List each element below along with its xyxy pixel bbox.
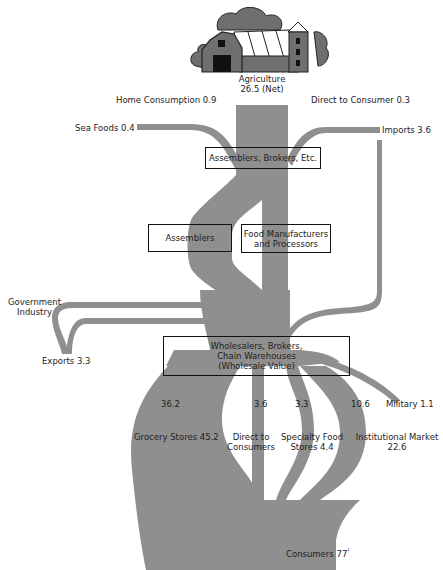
government-label-line2: Industry [17, 307, 52, 317]
sea-foods-label: Sea Foods 0.4 [75, 123, 135, 133]
direct-consumers-line1: Direct to [226, 432, 276, 442]
assemblers-brokers-box: Assemblers, Brokers, Etc. [205, 147, 321, 169]
split-value-specialty: 3.3 [295, 399, 309, 409]
agriculture-label: Agriculture [232, 74, 292, 84]
split-value-institutional: 10.6 [351, 399, 370, 409]
split-value-grocery: 36.2 [161, 399, 180, 409]
farm-barn-silo-icon [191, 7, 329, 72]
specialty-food-line2: Stores 4.4 [278, 442, 346, 452]
flow-diagram [0, 0, 443, 570]
food-manufacturers-line2: and Processors [254, 239, 318, 249]
consumers-label: Consumers 77¹ [286, 546, 350, 559]
agriculture-value: 26.5 (Net) [232, 84, 292, 94]
assemblers-brokers-label: Assemblers, Brokers, Etc. [209, 153, 317, 163]
home-consumption-label: Home Consumption 0.9 [116, 95, 216, 105]
institutional-market-line1: Institutional Market [352, 432, 442, 442]
assemblers-label: Assemblers [165, 233, 214, 243]
food-manufacturers-line1: Food Manufacturers [244, 229, 328, 239]
food-manufacturers-box: Food Manufacturers and Processors [241, 224, 331, 253]
specialty-food-line1: Specialty Food [278, 432, 346, 442]
consumers-footnote-mark: ¹ [347, 547, 349, 554]
wholesalers-line2: Chain Warehouses [217, 351, 296, 361]
military-label: Military 1.1 [386, 399, 434, 409]
imports-label: Imports 3.6 [382, 125, 431, 135]
assemblers-box: Assemblers [148, 224, 232, 252]
direct-consumers-line2: Consumers [226, 442, 276, 452]
grocery-stores-label: Grocery Stores 45.2 [134, 432, 219, 442]
flow-consumers-sink [150, 500, 360, 570]
government-label-line1: Government [8, 297, 61, 307]
institutional-market-line2: 22.6 [352, 442, 442, 452]
wholesalers-box: Wholesalers, Brokers, Chain Warehouses (… [163, 336, 350, 376]
split-value-direct: 3.6 [254, 399, 268, 409]
direct-to-consumer-label: Direct to Consumer 0.3 [311, 95, 410, 105]
wholesalers-line3: (Wholesale Value) [218, 361, 295, 371]
wholesalers-line1: Wholesalers, Brokers, [211, 341, 303, 351]
exports-label: Exports 3.3 [42, 356, 90, 366]
consumers-text: Consumers 77 [286, 549, 347, 559]
